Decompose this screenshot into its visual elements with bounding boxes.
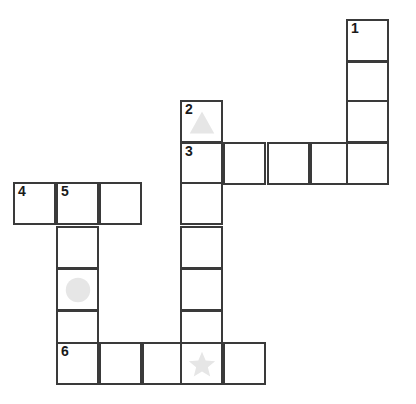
crossword-cell[interactable] bbox=[99, 342, 142, 385]
crossword-cell[interactable] bbox=[56, 226, 99, 269]
crossword-cell[interactable] bbox=[267, 142, 310, 185]
crossword-cell[interactable] bbox=[346, 100, 389, 143]
crossword-cell-numbered-3[interactable]: 3 bbox=[180, 142, 223, 185]
crossword-cell[interactable] bbox=[99, 182, 142, 225]
crossword-cell[interactable] bbox=[180, 226, 223, 269]
clue-number: 6 bbox=[61, 344, 69, 359]
crossword-cell[interactable] bbox=[180, 342, 223, 385]
circle-icon bbox=[64, 276, 92, 304]
crossword-cell-numbered-5[interactable]: 5 bbox=[56, 182, 99, 225]
star-icon bbox=[188, 350, 216, 378]
crossword-cell[interactable] bbox=[346, 142, 389, 185]
crossword-cell[interactable] bbox=[142, 342, 185, 385]
crossword-grid: 123456 bbox=[0, 0, 416, 404]
clue-number: 5 bbox=[61, 184, 69, 199]
crossword-cell[interactable] bbox=[180, 182, 223, 225]
crossword-cell-numbered-1[interactable]: 1 bbox=[346, 19, 389, 62]
crossword-cell-numbered-4[interactable]: 4 bbox=[13, 182, 56, 225]
crossword-cell[interactable] bbox=[180, 268, 223, 311]
crossword-cell[interactable] bbox=[223, 342, 266, 385]
crossword-cell[interactable] bbox=[56, 268, 99, 311]
crossword-cell[interactable] bbox=[223, 142, 266, 185]
crossword-cell[interactable] bbox=[346, 61, 389, 104]
crossword-cell-numbered-2[interactable]: 2 bbox=[180, 100, 223, 143]
clue-number: 4 bbox=[18, 184, 26, 199]
clue-number: 1 bbox=[351, 21, 359, 36]
clue-number: 2 bbox=[185, 102, 193, 117]
clue-number: 3 bbox=[185, 144, 193, 159]
crossword-cell-numbered-6[interactable]: 6 bbox=[56, 342, 99, 385]
